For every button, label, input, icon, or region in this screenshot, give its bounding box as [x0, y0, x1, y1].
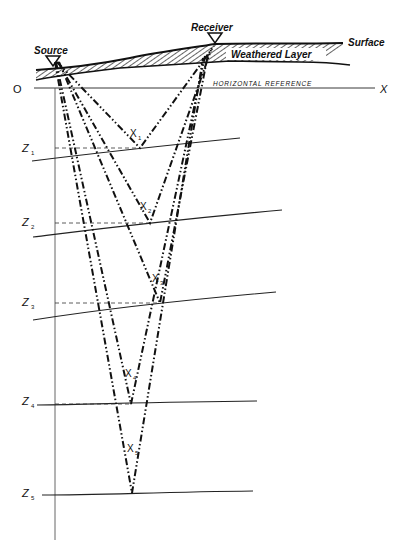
depth-label-z2: Z 2	[21, 216, 35, 230]
svg-text:X: X	[130, 128, 137, 139]
weathered-layer-label: Weathered Layer	[231, 49, 313, 60]
svg-text:X: X	[152, 273, 159, 284]
svg-text:4: 4	[133, 375, 137, 381]
svg-text:Z: Z	[21, 296, 30, 308]
layer-interface-5	[42, 491, 253, 495]
svg-text:1: 1	[138, 135, 142, 141]
ray-path-4	[56, 56, 205, 404]
ray-paths	[55, 46, 214, 493]
svg-text:3: 3	[31, 304, 35, 310]
svg-text:X: X	[127, 443, 134, 454]
surface-label: Surface	[348, 37, 385, 48]
svg-text:5: 5	[31, 495, 35, 501]
receiver-icon	[208, 33, 222, 43]
reflection-label-x5: X 5	[127, 443, 139, 456]
layer-interface-1	[32, 138, 240, 161]
svg-text:Z: Z	[21, 216, 30, 228]
reflection-label-x4: X 4	[125, 368, 137, 381]
origin-label: O	[13, 83, 22, 95]
depth-label-z1: Z 1	[21, 142, 35, 156]
svg-text:1: 1	[31, 150, 35, 156]
svg-text:2: 2	[148, 208, 152, 214]
svg-text:4: 4	[31, 403, 35, 409]
layer-interface-2	[33, 210, 282, 237]
svg-text:Z: Z	[21, 395, 30, 407]
svg-text:Z: Z	[21, 142, 30, 154]
source-label: Source	[34, 45, 68, 56]
source-icon	[46, 56, 60, 66]
depth-label-z4: Z 4	[21, 395, 35, 409]
svg-text:2: 2	[31, 224, 35, 230]
svg-text:Z: Z	[21, 487, 30, 499]
svg-text:X: X	[140, 201, 147, 212]
reflection-label-x2: X 2	[140, 201, 152, 214]
svg-text:X: X	[125, 368, 132, 379]
depth-label-z5: Z 5	[21, 487, 35, 501]
x-axis-label: X	[379, 83, 388, 95]
depth-label-z3: Z 3	[21, 296, 35, 310]
reflection-label-x3: X 3	[152, 273, 164, 286]
receiver-label: Receiver	[191, 22, 234, 33]
horizontal-reference-label: HORIZONTAL REFERENCE	[213, 80, 312, 87]
ray-path-5	[55, 58, 203, 493]
seismic-diagram: Weathered Layer Surface Source Receiver …	[0, 0, 413, 560]
